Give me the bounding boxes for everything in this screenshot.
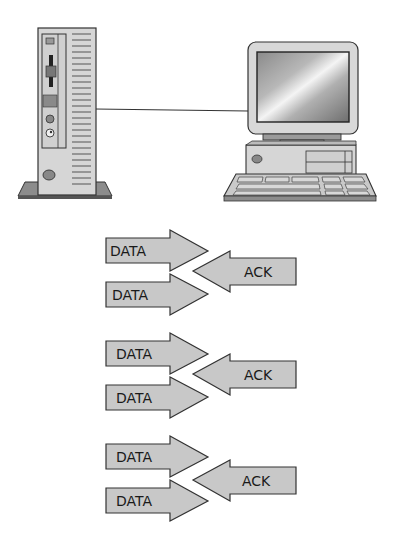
data-arrow-right: DATA (106, 230, 208, 271)
exchange-group-3: DATA ACK DATA (106, 436, 296, 521)
data-arrow-right: DATA (106, 333, 208, 374)
data-arrow-label: DATA (116, 390, 152, 406)
data-arrow-right: DATA (106, 436, 208, 477)
data-arrow-label: DATA (116, 346, 152, 362)
ack-arrow-left: ACK (193, 251, 296, 292)
ack-arrow-label: ACK (242, 473, 271, 489)
tower-computer-icon (18, 28, 112, 199)
ack-arrow-label: ACK (244, 264, 273, 280)
ack-arrow-left: ACK (193, 354, 296, 395)
ack-arrow-left: ACK (193, 460, 296, 501)
data-arrow-right: DATA (106, 274, 208, 315)
data-arrow-label: DATA (112, 287, 148, 303)
ack-arrow-label: ACK (244, 367, 273, 383)
data-arrow-label: DATA (116, 449, 152, 465)
network-connection-line (95, 109, 248, 111)
data-arrow-label: DATA (116, 493, 152, 509)
data-arrow-label: DATA (110, 243, 146, 259)
data-arrow-right: DATA (106, 377, 208, 418)
diagram-canvas: DATA ACK DATA DATA ACK DATA DATA (0, 0, 394, 546)
exchange-group-2: DATA ACK DATA (106, 333, 296, 418)
desktop-computer-icon (224, 42, 376, 201)
data-arrow-right: DATA (106, 480, 208, 521)
exchange-group-1: DATA ACK DATA (106, 230, 296, 315)
